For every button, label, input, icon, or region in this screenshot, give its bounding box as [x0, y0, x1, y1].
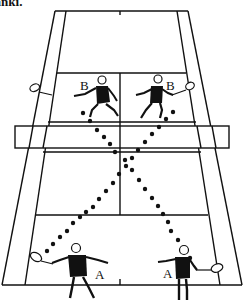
head	[180, 246, 189, 255]
player-label: A	[95, 267, 105, 282]
player-a-right: A	[158, 246, 224, 301]
player-label: A	[163, 266, 173, 281]
player-label: B	[166, 78, 175, 93]
head	[98, 76, 106, 84]
player-label: B	[80, 78, 89, 93]
racket-icon	[184, 81, 195, 92]
player-a-left: A	[29, 244, 108, 299]
racket-icon	[210, 262, 224, 274]
court-diagram: B B A A	[0, 0, 245, 301]
player-b-left: B	[29, 76, 118, 117]
head	[154, 75, 162, 83]
player-b-right: B	[136, 75, 196, 118]
head	[72, 244, 81, 253]
